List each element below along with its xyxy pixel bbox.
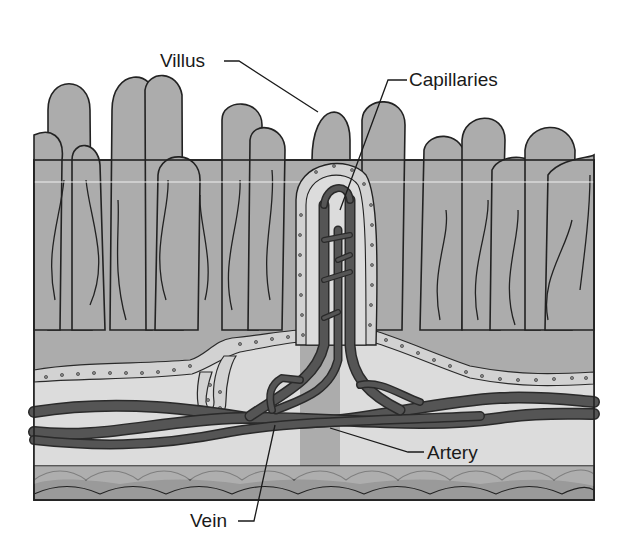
muscle-layer: [34, 466, 594, 500]
label-villus: Villus: [160, 50, 318, 112]
villi-diagram: Villus Capillaries Artery Vein: [0, 0, 626, 552]
capillaries-label: Capillaries: [409, 69, 498, 90]
vein-label: Vein: [190, 510, 227, 531]
villus-label: Villus: [160, 50, 205, 71]
artery-label: Artery: [427, 442, 478, 463]
